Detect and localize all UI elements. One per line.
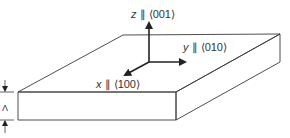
x-axis-label: x ∥ ⟨100⟩ [95, 78, 140, 91]
thickness-label: Λ [2, 103, 8, 113]
slab-front-face [18, 92, 176, 120]
coordinate-axes [125, 23, 185, 75]
slab-diagram: z ∥ ⟨001⟩ y ∥ ⟨010⟩ x ∥ ⟨100⟩ Λ [0, 0, 290, 138]
x-axis-arrow [125, 62, 149, 75]
z-axis-label: z ∥ ⟨001⟩ [130, 8, 175, 21]
y-axis-label: y ∥ ⟨010⟩ [182, 41, 227, 54]
